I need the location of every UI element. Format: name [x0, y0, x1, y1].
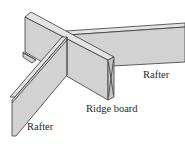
label-rafter-right: Rafter [143, 69, 170, 80]
label-rafter-left: Rafter [27, 121, 54, 132]
ridge-rafter-diagram: Rafter Ridge board Rafter [0, 0, 185, 144]
label-ridge-board: Ridge board [86, 103, 138, 114]
